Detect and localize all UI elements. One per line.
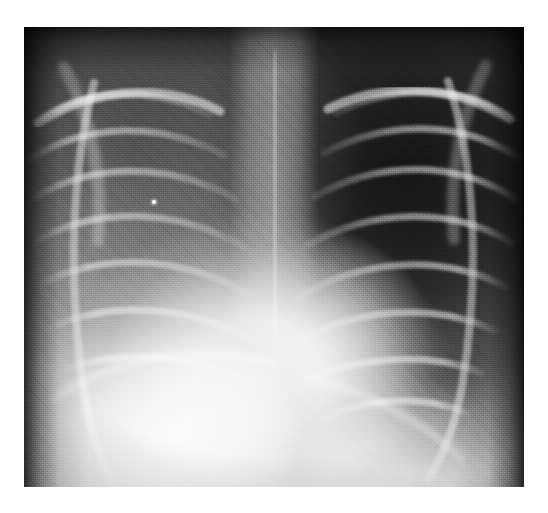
halftone-screen-texture	[24, 27, 524, 487]
film-grain-texture	[24, 27, 524, 487]
bone-arc	[298, 265, 506, 297]
left-rib-arcs	[298, 92, 518, 419]
bone-arc	[32, 171, 236, 199]
bone-arc	[324, 129, 518, 157]
collimation-border-vignette	[24, 27, 524, 487]
page-root	[0, 0, 548, 513]
scapula-shadows	[64, 65, 486, 241]
bone-arc	[64, 67, 99, 241]
bone-arc	[42, 262, 250, 295]
mediastinum-spine-region	[24, 27, 524, 487]
bone-arc	[66, 357, 246, 379]
bone-arc	[30, 131, 224, 159]
bone-arc	[302, 359, 482, 381]
lateral-chest-wall-outline	[74, 81, 473, 479]
bone-arc	[336, 92, 514, 119]
bone-arc	[74, 83, 110, 477]
clavicle-shadows	[38, 90, 510, 123]
bone-arc	[428, 81, 473, 479]
bone-arc	[298, 312, 496, 341]
left-hemidiaphragm-outline	[312, 379, 462, 459]
bone-arc	[314, 169, 516, 199]
right-lung-field-region	[24, 27, 524, 487]
diaphragm-region	[24, 27, 524, 487]
right-hemidiaphragm-outline	[54, 354, 274, 399]
film-base-exposure-layer	[24, 27, 524, 487]
thoracic-spine-shadow	[274, 61, 276, 327]
bone-arc	[328, 90, 510, 119]
left-lung-field-region	[24, 27, 524, 487]
chest-radiograph-image	[24, 27, 524, 487]
bone-arc	[38, 93, 220, 123]
bony-thorax-overlay	[24, 27, 524, 487]
bone-arc	[453, 65, 486, 239]
bone-arc	[52, 310, 250, 339]
right-rib-arcs	[30, 94, 250, 379]
bright-speck-artifact	[152, 200, 156, 204]
bone-arc	[304, 216, 512, 247]
bone-arc	[320, 401, 468, 419]
bone-arc	[34, 94, 210, 123]
cardiac-silhouette-region	[24, 27, 524, 487]
bone-arc	[36, 216, 244, 247]
